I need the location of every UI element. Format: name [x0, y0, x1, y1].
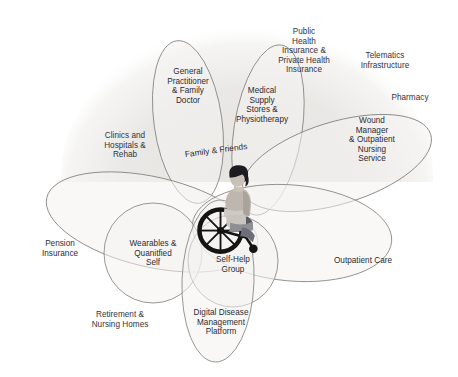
diagram-canvas: Family & Friends General Practitioner & … — [0, 0, 458, 377]
person-body — [223, 189, 252, 231]
ecosystem-venn-svg — [0, 0, 458, 377]
